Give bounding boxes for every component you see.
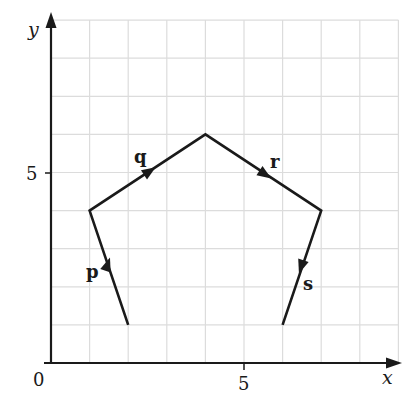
x-tick-label: 5 xyxy=(238,373,249,394)
grid xyxy=(51,20,398,363)
vector-r-label: r xyxy=(270,151,280,172)
y-axis-label: y xyxy=(27,18,39,40)
vectors: p q r s xyxy=(86,134,321,325)
vector-s-label: s xyxy=(303,273,313,294)
axes: y x 0 5 5 xyxy=(26,12,402,394)
vector-p-arrow-icon xyxy=(100,256,115,273)
x-axis-label: x xyxy=(382,366,393,388)
vector-q-label: q xyxy=(134,146,147,167)
vector-p-label: p xyxy=(86,261,99,282)
y-tick-label: 5 xyxy=(26,163,37,184)
origin-label: 0 xyxy=(33,369,44,390)
vector-diagram: y x 0 5 5 p q r s xyxy=(0,0,416,402)
